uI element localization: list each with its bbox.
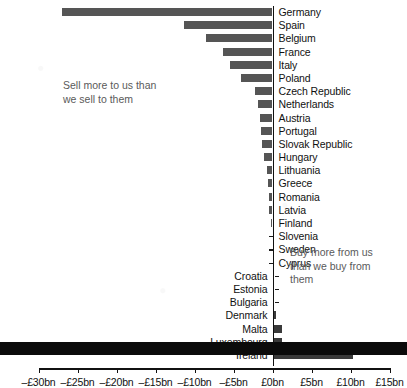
bar-hungary xyxy=(264,153,273,161)
bar-row: Netherlands xyxy=(0,98,407,111)
bar-row: Italy xyxy=(0,59,407,72)
category-label-latvia: Latvia xyxy=(279,204,306,216)
sell-more-note: Sell more to us than we sell to them xyxy=(63,79,188,106)
category-label-czech-republic: Czech Republic xyxy=(279,85,351,97)
bar-germany xyxy=(62,8,273,16)
bar-slovak-republic xyxy=(262,140,273,148)
x-tick-label-15: £15bn xyxy=(364,376,407,388)
x-tick-10 xyxy=(351,368,352,373)
tick-bulgaria xyxy=(275,302,279,303)
zero-value-axis xyxy=(273,6,274,366)
x-tick-5 xyxy=(312,368,313,373)
tick-estonia xyxy=(275,289,279,290)
category-label-germany: Germany xyxy=(279,6,321,18)
bar-row: Hungary xyxy=(0,151,407,164)
bar-spain xyxy=(184,21,273,29)
bar-czech-republic xyxy=(255,87,273,95)
category-label-netherlands: Netherlands xyxy=(279,98,335,110)
tick-croatia xyxy=(275,276,279,277)
category-label-estonia: Estonia xyxy=(233,283,267,295)
category-label-spain: Spain xyxy=(279,19,305,31)
x-tick--10 xyxy=(195,368,196,373)
category-label-france: France xyxy=(279,46,311,58)
bar-row: Bulgaria xyxy=(0,296,407,309)
category-label-slovak-republic: Slovak Republic xyxy=(279,138,353,150)
bar-row: Czech Republic xyxy=(0,85,407,98)
category-label-belgium: Belgium xyxy=(279,32,316,44)
bar-row: Slovenia xyxy=(0,230,407,243)
bar-row: Belgium xyxy=(0,32,407,45)
bar-row: Denmark xyxy=(0,309,407,322)
category-label-bulgaria: Bulgaria xyxy=(230,296,268,308)
x-tick--15 xyxy=(156,368,157,373)
bar-row: Romania xyxy=(0,191,407,204)
category-label-hungary: Hungary xyxy=(279,151,318,163)
bar-row: Slovak Republic xyxy=(0,138,407,151)
bar-row: Austria xyxy=(0,112,407,125)
bar-france xyxy=(223,48,273,56)
bar-poland xyxy=(241,74,272,82)
bottom-black-band xyxy=(0,342,407,355)
bar-belgium xyxy=(206,34,272,42)
category-label-finland: Finland xyxy=(279,217,313,229)
category-label-portugal: Portugal xyxy=(279,125,317,137)
x-axis-line xyxy=(39,368,390,369)
bar-row: Lithuania xyxy=(0,164,407,177)
bar-row: Spain xyxy=(0,19,407,32)
category-label-italy: Italy xyxy=(279,59,298,71)
bar-row: Greece xyxy=(0,177,407,190)
x-tick--30 xyxy=(39,368,40,373)
bar-row: Poland xyxy=(0,72,407,85)
bar-row: Portugal xyxy=(0,125,407,138)
bar-portugal xyxy=(261,127,273,135)
bar-austria xyxy=(260,114,272,122)
bar-netherlands xyxy=(258,100,272,108)
bar-malta xyxy=(274,325,282,333)
bar-row: Germany xyxy=(0,6,407,19)
category-label-slovenia: Slovenia xyxy=(279,230,318,242)
x-tick--25 xyxy=(78,368,79,373)
category-label-croatia: Croatia xyxy=(234,270,267,282)
bar-denmark xyxy=(274,311,276,319)
x-tick--20 xyxy=(117,368,118,373)
x-tick-15 xyxy=(390,368,391,373)
bar-row: Malta xyxy=(0,323,407,336)
buy-more-note: Buy more from us than we buy from them xyxy=(290,246,405,287)
bar-row: France xyxy=(0,46,407,59)
category-label-romania: Romania xyxy=(279,191,320,203)
category-label-greece: Greece xyxy=(279,177,313,189)
bar-row: Latvia xyxy=(0,204,407,217)
bar-row: Finland xyxy=(0,217,407,230)
bar-rows-container: GermanySpainBelgiumFranceItalyPolandCzec… xyxy=(0,6,407,362)
category-label-lithuania: Lithuania xyxy=(279,164,321,176)
category-label-malta: Malta xyxy=(242,323,267,335)
category-label-austria: Austria xyxy=(279,112,311,124)
x-tick-0 xyxy=(273,368,274,373)
bar-italy xyxy=(230,61,273,69)
category-label-denmark: Denmark xyxy=(226,309,268,321)
x-tick--5 xyxy=(234,368,235,373)
category-label-poland: Poland xyxy=(279,72,311,84)
